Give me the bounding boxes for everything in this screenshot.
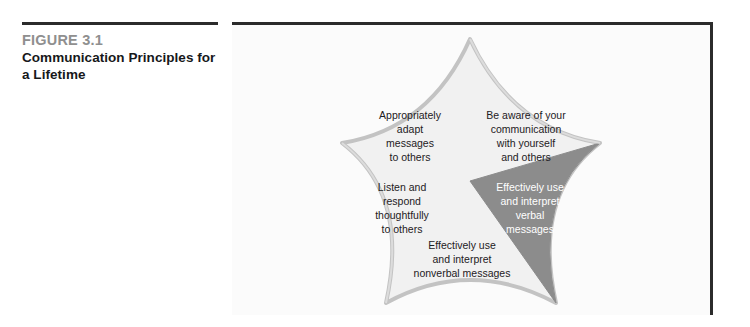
- figure-panel: Be aware of your communication with your…: [232, 22, 713, 315]
- caption-top-rule: [22, 22, 218, 25]
- figure-number: FIGURE 3.1: [22, 32, 218, 49]
- page-title: Communication Principles for a Lifetime: [22, 50, 218, 84]
- figure-caption: FIGURE 3.1 Communication Principles for …: [22, 22, 218, 83]
- pentagon-diagram: [232, 25, 713, 318]
